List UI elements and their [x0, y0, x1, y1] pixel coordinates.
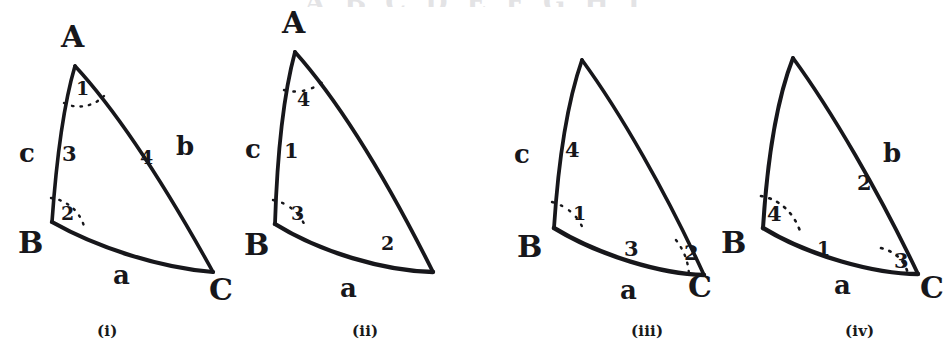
figure-i-drawing [0, 0, 240, 352]
angle-number-4-iv: 4 [767, 203, 782, 224]
side-label-a-iv: a [834, 272, 851, 298]
vertex-label-c-iv: C [920, 273, 944, 303]
figure-caption-i: (i) [97, 322, 118, 340]
angle-number-3-ii: 3 [291, 204, 304, 223]
side-a-curve-ii [275, 224, 433, 272]
vertex-label-a-ii: A [282, 8, 305, 38]
figure-caption-ii: (ii) [352, 322, 378, 340]
vertex-label-b-iii: B [517, 232, 542, 262]
figure-iii-drawing [480, 0, 715, 352]
side-label-a-iii: a [620, 277, 637, 303]
side-b-curve-ii [295, 52, 433, 272]
angle-number-2-i: 2 [61, 204, 74, 223]
figure-iii: B C c a 4 1 3 2 (iii) [480, 0, 715, 352]
side-label-c-i: c [19, 140, 35, 166]
angle-number-4-ii: 4 [297, 90, 310, 109]
side-number-4-i: 4 [140, 148, 153, 167]
side-number-1-iv: 1 [817, 239, 830, 258]
vertex-label-b-ii: B [244, 230, 269, 260]
figure-caption-iv: (iv) [845, 322, 874, 340]
vertex-label-c-iii: C [688, 272, 712, 302]
figure-iv: B C b a 2 4 1 3 (iv) [715, 0, 950, 352]
side-number-2-ii: 2 [381, 234, 394, 253]
figure-ii-drawing [240, 0, 480, 352]
side-label-c-ii: c [245, 136, 261, 162]
side-number-3-iii: 3 [624, 238, 639, 259]
vertex-label-c-i: C [209, 275, 233, 305]
figure-page: A B C D E F G H I A B C c b a 1 2 3 4 (i… [0, 0, 950, 352]
angle-number-2-iii: 2 [684, 242, 699, 263]
side-label-c-iii: c [514, 141, 530, 167]
figure-caption-iii: (iii) [631, 322, 663, 340]
angle-number-1-iii: 1 [573, 204, 586, 223]
vertex-label-a-i: A [61, 22, 84, 52]
figure-iv-drawing [715, 0, 950, 352]
side-number-1-ii: 1 [284, 140, 299, 161]
side-label-a-ii: a [340, 275, 357, 301]
figure-i: A B C c b a 1 2 3 4 (i) [0, 0, 240, 352]
side-label-b-i: b [176, 133, 194, 159]
figure-ii: A B c a 4 1 3 2 (ii) [240, 0, 480, 352]
vertex-label-b-i: B [18, 228, 43, 258]
vertex-label-b-iv: B [721, 228, 746, 258]
side-label-b-iv: b [883, 140, 901, 166]
side-label-a-i: a [113, 262, 130, 288]
side-number-4-iii: 4 [565, 139, 580, 160]
angle-number-1-i: 1 [76, 79, 89, 98]
side-number-2-iv: 2 [857, 172, 872, 193]
angle-number-3-iv: 3 [894, 250, 909, 271]
side-number-3-i: 3 [62, 143, 77, 164]
